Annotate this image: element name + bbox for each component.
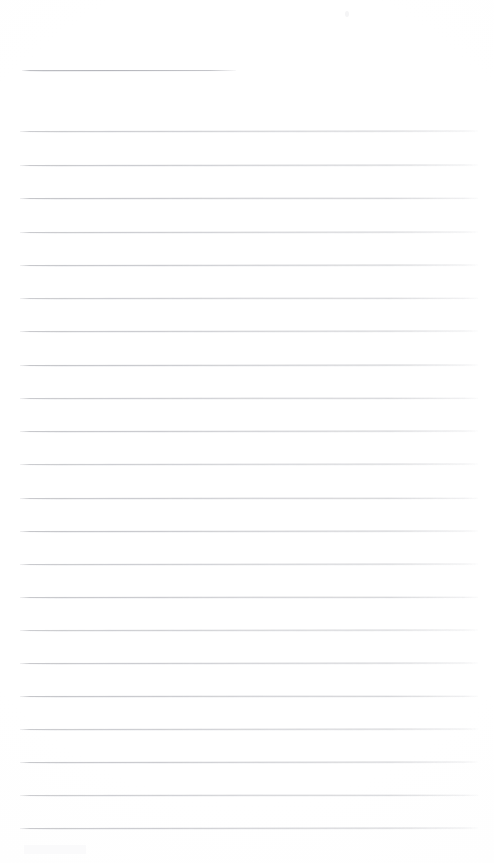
scanned-page (0, 0, 494, 863)
writing-area[interactable] (20, 110, 478, 845)
top-speck (345, 11, 349, 17)
title-rule (22, 70, 236, 71)
bottom-smudge (24, 845, 86, 854)
